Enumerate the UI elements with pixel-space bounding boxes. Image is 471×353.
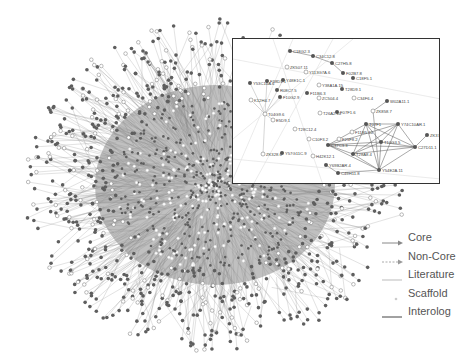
graph-node (305, 91, 309, 95)
graph-node (337, 137, 341, 141)
legend-item-scaffold: Scaffold (382, 284, 471, 303)
node-label: C37C3.3 (331, 143, 348, 148)
graph-node (371, 109, 375, 113)
graph-node (318, 111, 322, 115)
graph-node (288, 49, 292, 53)
legend-item-literature: Literature (382, 265, 471, 284)
graph-node (377, 168, 381, 172)
node-label: Y57G11C.9 (285, 151, 307, 156)
inset-subnetwork-panel: C18G2.3C34C12.8C27H5.8ZK507.11Y113G7A.6F… (232, 38, 440, 184)
node-label: T26A2.10 (323, 111, 342, 116)
graph-node (293, 127, 297, 131)
legend-item-core: Core (382, 228, 471, 247)
graph-node (413, 145, 417, 149)
graph-node (326, 143, 330, 147)
graph-node (364, 122, 368, 126)
graph-node (281, 78, 285, 82)
node-label: R08C7.5 (280, 88, 297, 93)
node-label: Y54E2A.11 (382, 168, 404, 173)
inset-graph: C18G2.3C34C12.8C27H5.8ZK507.11Y113G7A.6F… (233, 39, 440, 184)
graph-node (285, 65, 289, 69)
node-label: C18G2.3 (293, 49, 310, 54)
node-label: E5D9.1 (276, 118, 291, 123)
legend-label: Scaffold (408, 287, 448, 299)
node-label: Y113G7A.6 (309, 70, 331, 75)
node-label: T07F1 (369, 122, 382, 127)
node-label: ZK370.3 (430, 133, 440, 138)
node-label: C34F6.4 (357, 96, 374, 101)
legend-item-interolog: Interolog (382, 302, 471, 321)
legend-item-non-core: Non-Core (382, 247, 471, 266)
node-label: F07F1.6 (340, 110, 356, 115)
node-label: T04G9.6 (268, 112, 285, 117)
graph-node (307, 137, 311, 141)
node-label: ZK858.7 (376, 109, 393, 114)
node-label: F10G2.9 (283, 95, 300, 100)
graph-node (263, 112, 267, 116)
solid-arrow-icon (382, 233, 404, 241)
graph-node (330, 61, 334, 65)
graph-node (248, 81, 252, 85)
node-label: C49H11.8 (341, 171, 360, 176)
light-line-icon (382, 270, 404, 278)
node-label: ZK507.11 (290, 65, 309, 70)
node-label: C34C12.8 (316, 54, 336, 59)
graph-node (317, 83, 321, 87)
graph-node (336, 171, 340, 175)
node-label: T28D9.1 (345, 87, 362, 92)
graph-node (271, 118, 275, 122)
node-label: C27H5.8 (335, 61, 352, 66)
legend-label: Interolog (408, 305, 451, 317)
node-label: Y69B2AR.4 (329, 163, 352, 168)
node-label: F11B5.10 (355, 130, 374, 135)
dot-icon (382, 289, 404, 297)
graph-node (311, 154, 315, 158)
node-label: F25F8.2 (342, 137, 358, 142)
legend-label: Literature (408, 268, 454, 280)
graph-node (350, 130, 354, 134)
node-label: W02A11.1 (390, 99, 410, 104)
dark-line-icon (382, 307, 404, 315)
node-label: T10G3.5 (384, 140, 401, 145)
graph-node (340, 87, 344, 91)
graph-node (275, 88, 279, 92)
node-label: T28A8.4 (356, 152, 373, 157)
graph-node (351, 152, 355, 156)
node-label: H42K12.1 (316, 154, 335, 159)
node-label: ZK328.6 (266, 152, 283, 157)
node-label: Y48E1C.1 (286, 78, 306, 83)
graph-node (317, 96, 321, 100)
graph-node (280, 151, 284, 155)
node-label: ZC504.4 (322, 96, 339, 101)
legend-label: Non-Core (408, 250, 456, 262)
graph-node (425, 133, 429, 137)
graph-node (352, 96, 356, 100)
node-label: Y38A1A.15 (322, 83, 344, 88)
node-label: C10F3.2 (312, 137, 329, 142)
node-label: Y74C10AR.1 (401, 122, 426, 127)
graph-node (351, 76, 355, 80)
graph-node (396, 122, 400, 126)
graph-node (249, 98, 253, 102)
node-label: K12H4.7 (254, 98, 271, 103)
graph-node (278, 95, 282, 99)
graph-node (311, 54, 315, 58)
node-label: T28C12.4 (298, 127, 317, 132)
graph-node (304, 70, 308, 74)
node-label: C27D11.1 (418, 145, 437, 150)
graph-node (261, 152, 265, 156)
legend-label: Core (408, 231, 432, 243)
graph-node (324, 163, 328, 167)
node-label: C18F5.1 (356, 76, 373, 81)
graph-node (265, 79, 269, 83)
graph-node (379, 140, 383, 144)
legend: Core Non-Core Literature Scaffold Intero… (382, 228, 471, 321)
graph-node (385, 99, 389, 103)
graph-node (341, 71, 345, 75)
dashed-arrow-icon (382, 252, 404, 260)
